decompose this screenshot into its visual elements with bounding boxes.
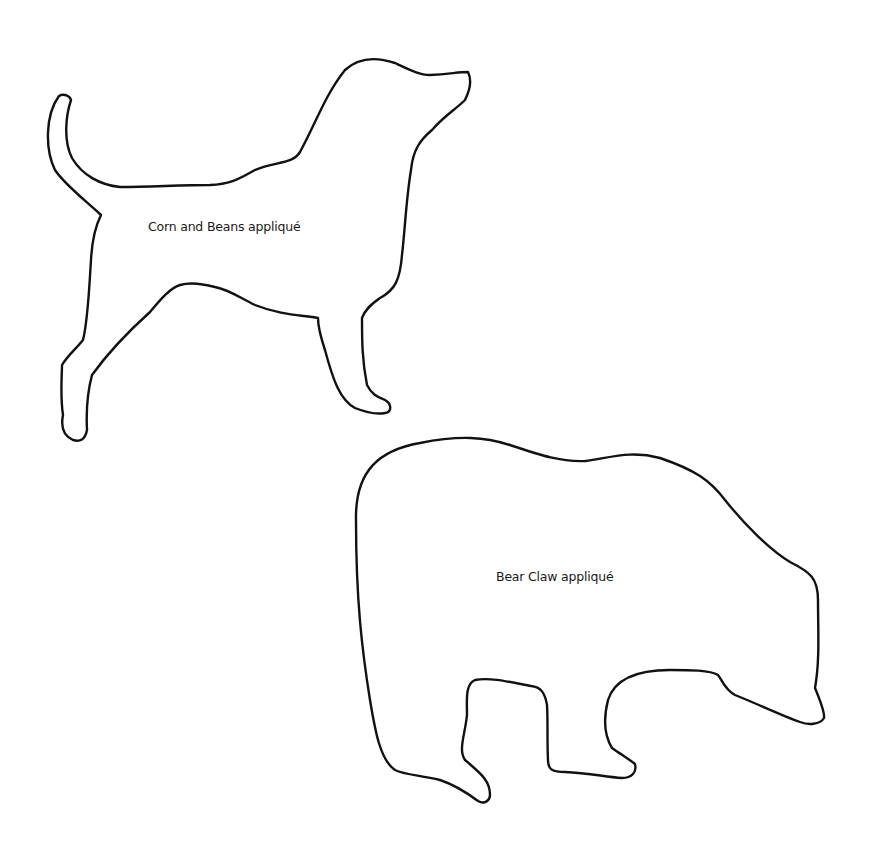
bear-outline xyxy=(356,438,824,803)
dog-applique-label: Corn and Beans appliqué xyxy=(148,219,300,234)
dog-outline xyxy=(48,59,470,440)
applique-template-page: Corn and Beans appliqué Bear Claw appliq… xyxy=(0,0,877,843)
outline-drawing xyxy=(0,0,877,843)
bear-applique-label: Bear Claw appliqué xyxy=(496,569,614,584)
